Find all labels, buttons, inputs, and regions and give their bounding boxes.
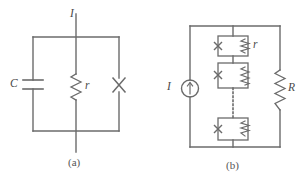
panel-a-resistor-label: r xyxy=(85,80,89,92)
panel-b-group xyxy=(182,26,286,147)
circuit-diagram-svg xyxy=(0,0,304,187)
cell-2-group xyxy=(215,63,250,88)
resistor-r-zigzag xyxy=(71,74,81,100)
cell-1-group xyxy=(215,36,250,56)
panel-a-current-label: I xyxy=(70,8,74,20)
cell-n-group xyxy=(215,118,250,140)
panel-b-cell-resistor-label: r xyxy=(253,39,257,51)
panel-a-group xyxy=(23,14,125,152)
capacitor-label: C xyxy=(10,78,18,90)
figure-container: I C r (a) I r R (b) xyxy=(0,0,304,187)
panel-b-shunt-label: R xyxy=(288,82,295,94)
cell-1-box xyxy=(218,36,248,56)
panel-b-source-label: I xyxy=(167,81,171,93)
caption-b: (b) xyxy=(226,160,239,171)
shunt-resistor-R-zigzag xyxy=(275,70,285,110)
caption-a: (a) xyxy=(68,157,80,168)
